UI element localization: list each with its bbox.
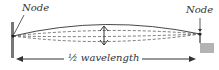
wave-envelope-top [13,24,200,36]
left-node-label: Node [22,3,49,13]
left-post [11,22,14,58]
right-node-label: Node [186,5,213,15]
left-node-pointer [14,15,24,34]
arrow-left-icon [16,56,64,62]
wave-dashed-1 [13,30,200,36]
right-block [200,43,214,53]
standing-wave-diagram: Node Node ½ wavelength [0,0,219,70]
right-node-pointer-head [198,29,202,32]
right-node-dot [198,32,201,35]
wave-dashed-3 [13,34,200,42]
left-node-dot [11,34,14,37]
wavelength-label: ½ wavelength [68,53,139,63]
arrow-right-icon [142,56,196,62]
wave-dashed-2 [13,34,200,37]
double-arrow-icon [100,26,108,45]
